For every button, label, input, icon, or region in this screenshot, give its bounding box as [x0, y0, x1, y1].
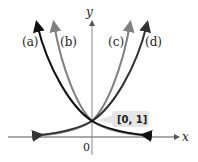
curve-a-label: (a): [22, 35, 39, 49]
y-axis-label: y: [85, 5, 93, 19]
x-axis-label: x: [182, 130, 189, 144]
curve-c-label: (c): [108, 35, 124, 49]
curve-b-label: (b): [60, 35, 77, 49]
exponential-graph: x y 0 (a) (b) (c) (d) [0, 1]: [0, 0, 198, 162]
curve-d-label: (d): [145, 35, 162, 49]
intersection-label: [0, 1]: [117, 114, 147, 125]
origin-label: 0: [83, 141, 90, 154]
intersection-callout: [0, 1]: [96, 111, 149, 127]
